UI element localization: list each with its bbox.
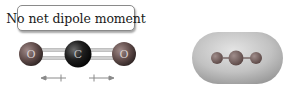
oxygen-atom-left: O <box>19 42 43 66</box>
cloud-oxygen-left <box>211 52 223 64</box>
oxygen-atom-right: O <box>112 42 136 66</box>
carbon-atom: C <box>65 41 92 68</box>
svg-text:O: O <box>26 48 35 61</box>
svg-text:O: O <box>119 48 128 61</box>
cloud-carbon <box>229 51 244 66</box>
cloud-oxygen-right <box>250 52 262 64</box>
dipole-arrow-right <box>89 75 114 82</box>
dipole-arrow-left <box>41 75 66 82</box>
svg-text:C: C <box>74 48 82 61</box>
molecule-diagrams: O C O <box>0 0 292 88</box>
